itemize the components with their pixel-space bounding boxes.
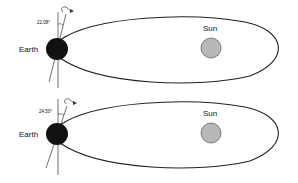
tilt-angle-arc bbox=[58, 114, 64, 115]
earth-circle bbox=[46, 123, 68, 145]
orbit-ellipse bbox=[60, 102, 278, 168]
earth-label: Earth bbox=[19, 130, 38, 139]
rotation-arrowhead-icon bbox=[70, 9, 74, 13]
sun-label: Sun bbox=[203, 24, 217, 33]
diagram-bottom: 24.50° Earth Sun bbox=[19, 99, 278, 175]
sun-circle bbox=[201, 38, 221, 58]
diagram-top: 22.08° Earth Sun bbox=[19, 7, 278, 88]
sun-label: Sun bbox=[203, 109, 217, 118]
rotation-arrowhead-icon bbox=[73, 101, 77, 105]
rotation-arrow-icon bbox=[65, 99, 74, 104]
sun-circle bbox=[201, 123, 221, 143]
tilt-angle-label: 22.08° bbox=[37, 20, 50, 25]
orbit-diagram: 22.08° Earth Sun 24.50° Earth Sun bbox=[0, 0, 298, 183]
earth-label: Earth bbox=[19, 45, 38, 54]
tilt-angle-arc bbox=[58, 24, 63, 25]
earth-circle bbox=[46, 38, 68, 60]
tilt-angle-label: 24.50° bbox=[39, 109, 52, 114]
orbit-ellipse bbox=[60, 17, 278, 83]
rotation-arrow-icon bbox=[62, 7, 71, 12]
